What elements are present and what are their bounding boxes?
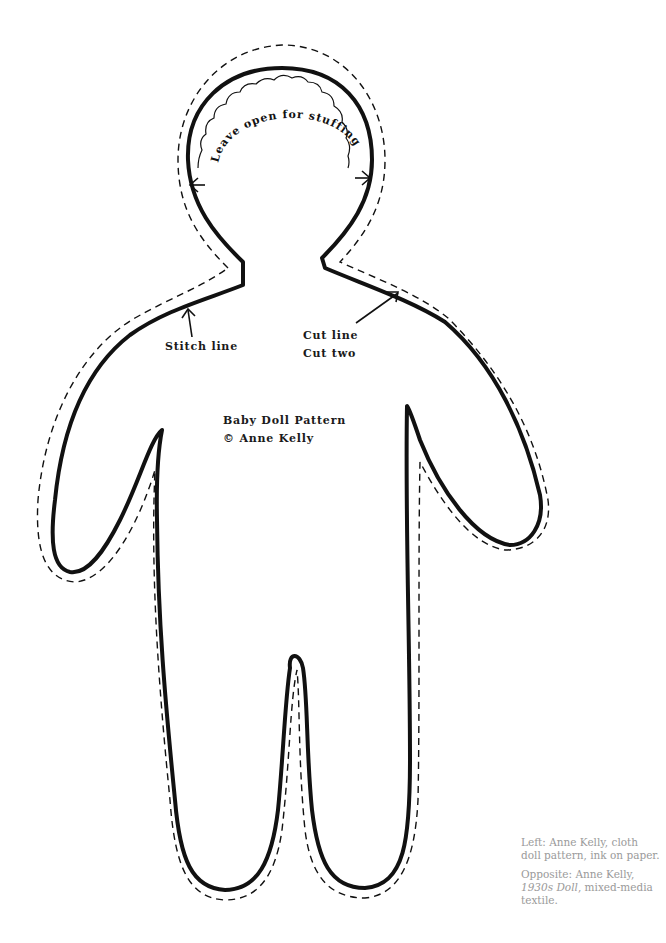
cut-line-label: Cut line [303, 329, 358, 342]
caption-opposite-prefix: Opposite: Anne Kelly, [521, 868, 634, 880]
stitch-line-arrow-icon [182, 309, 195, 337]
doll-pattern-drawing: Leave open for stuffing [0, 0, 666, 943]
caption-opposite: Opposite: Anne Kelly, 1930s Doll, mixed-… [521, 868, 661, 907]
pattern-copyright: © Anne Kelly [223, 432, 314, 445]
pattern-title: Baby Doll Pattern [223, 414, 346, 427]
stitch-line-outline [53, 68, 541, 890]
stitch-line-label: Stitch line [165, 340, 238, 353]
cut-line-outline [37, 45, 548, 900]
cut-line-arrow-icon [356, 292, 398, 323]
figure-caption: Left: Anne Kelly, cloth doll pattern, in… [521, 836, 661, 913]
cut-two-label: Cut two [303, 347, 356, 360]
caption-left: Left: Anne Kelly, cloth doll pattern, in… [521, 836, 661, 862]
caption-opposite-title: 1930s Doll [521, 881, 578, 893]
stuffing-label: Leave open for stuffing [208, 108, 363, 164]
